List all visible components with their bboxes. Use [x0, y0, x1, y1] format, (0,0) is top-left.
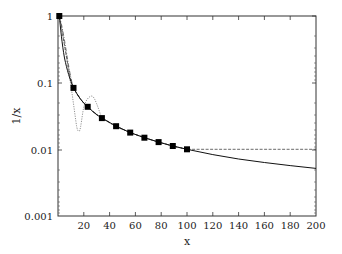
x-tick-label: 160	[255, 220, 274, 231]
x-tick-label: 60	[129, 220, 142, 231]
y-axis-ticks	[58, 16, 316, 150]
y-tick-label: 1	[47, 11, 53, 22]
x-axis-ticks	[84, 16, 290, 216]
y-axis-minor-ticks	[58, 36, 316, 213]
x-tick-label: 20	[77, 220, 90, 231]
x-tick-label: 180	[281, 220, 300, 231]
x-tick-label: 120	[203, 220, 222, 231]
x-tick-label: 140	[229, 220, 248, 231]
plot-frame	[58, 16, 316, 216]
chart: 1 0.1 0.01 0.001 20 40 60 80 100 120 140…	[0, 0, 342, 254]
series-solid	[59, 16, 316, 168]
y-tick-label: 0.01	[31, 145, 53, 156]
data-markers	[56, 13, 190, 152]
x-tick-label: 100	[177, 220, 196, 231]
y-tick-label: 0.001	[24, 211, 53, 222]
x-tick-label: 200	[306, 220, 325, 231]
series-dashed	[59, 16, 316, 149]
y-axis-label: 1/x	[10, 107, 23, 125]
x-axis-label: x	[184, 235, 191, 248]
y-tick-label: 0.1	[37, 78, 53, 89]
x-tick-label: 80	[155, 220, 168, 231]
x-tick-label: 40	[103, 220, 116, 231]
